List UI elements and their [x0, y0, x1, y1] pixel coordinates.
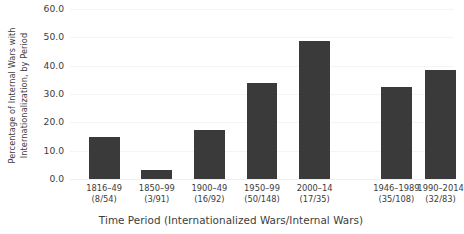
x-tick-period: 2000–14 — [297, 183, 333, 194]
x-tick-counts: (16/92) — [191, 194, 227, 205]
y-axis-tick-label: 50.0 — [30, 33, 64, 42]
y-axis-title-line-1: Percentage of Internal Wars with — [7, 27, 19, 163]
x-tick-counts: (35/108) — [373, 194, 419, 205]
x-tick-counts: (8/54) — [86, 194, 122, 205]
y-axis-tick-labels: 0.010.020.030.040.050.060.0 — [30, 9, 64, 179]
x-tick-counts: (32/83) — [417, 194, 463, 205]
x-axis-tick-labels: 1816–49(8/54)1850–99(3/91)1900–49(16/92)… — [70, 183, 454, 213]
x-tick-period: 1850–99 — [139, 183, 175, 194]
x-axis-tick-label: 2000–14(17/35) — [297, 183, 333, 205]
bar — [89, 137, 120, 179]
y-axis-tick-label: 20.0 — [30, 118, 64, 127]
y-axis-title-line-2: Internationalization, by Period — [18, 27, 30, 163]
x-tick-period: 1900–49 — [191, 183, 227, 194]
x-axis-tick-label: 1946–1989(35/108) — [373, 183, 419, 205]
x-axis-tick-label: 1850–99(3/91) — [139, 183, 175, 205]
x-axis-tick-label: 1900–49(16/92) — [191, 183, 227, 205]
plot-area — [70, 9, 454, 179]
x-axis-tick-label: 1990–2014(32/83) — [417, 183, 463, 205]
x-tick-period: 1816–49 — [86, 183, 122, 194]
x-tick-counts: (3/91) — [139, 194, 175, 205]
x-axis-tick-label: 1950–99(50/148) — [244, 183, 280, 205]
bar-series — [70, 9, 454, 179]
y-axis-tick-label: 40.0 — [30, 61, 64, 70]
y-axis-tick-label: 60.0 — [30, 4, 64, 13]
x-tick-counts: (50/148) — [244, 194, 280, 205]
x-tick-period: 1950–99 — [244, 183, 280, 194]
bar — [381, 87, 412, 179]
x-tick-period: 1946–1989 — [373, 183, 419, 194]
bar — [425, 70, 456, 179]
x-tick-period: 1990–2014 — [417, 183, 463, 194]
y-axis-tick-label: 0.0 — [30, 174, 64, 183]
x-axis-title: Time Period (Internationalized Wars/Inte… — [0, 214, 462, 227]
bar — [247, 83, 278, 179]
y-axis-tick-label: 10.0 — [30, 146, 64, 155]
bar — [194, 130, 225, 179]
bar — [299, 41, 330, 179]
y-axis-tick-label: 30.0 — [30, 89, 64, 98]
x-axis-tick-label: 1816–49(8/54) — [86, 183, 122, 205]
gridline — [70, 179, 454, 180]
x-tick-counts: (17/35) — [297, 194, 333, 205]
bar — [141, 170, 172, 179]
